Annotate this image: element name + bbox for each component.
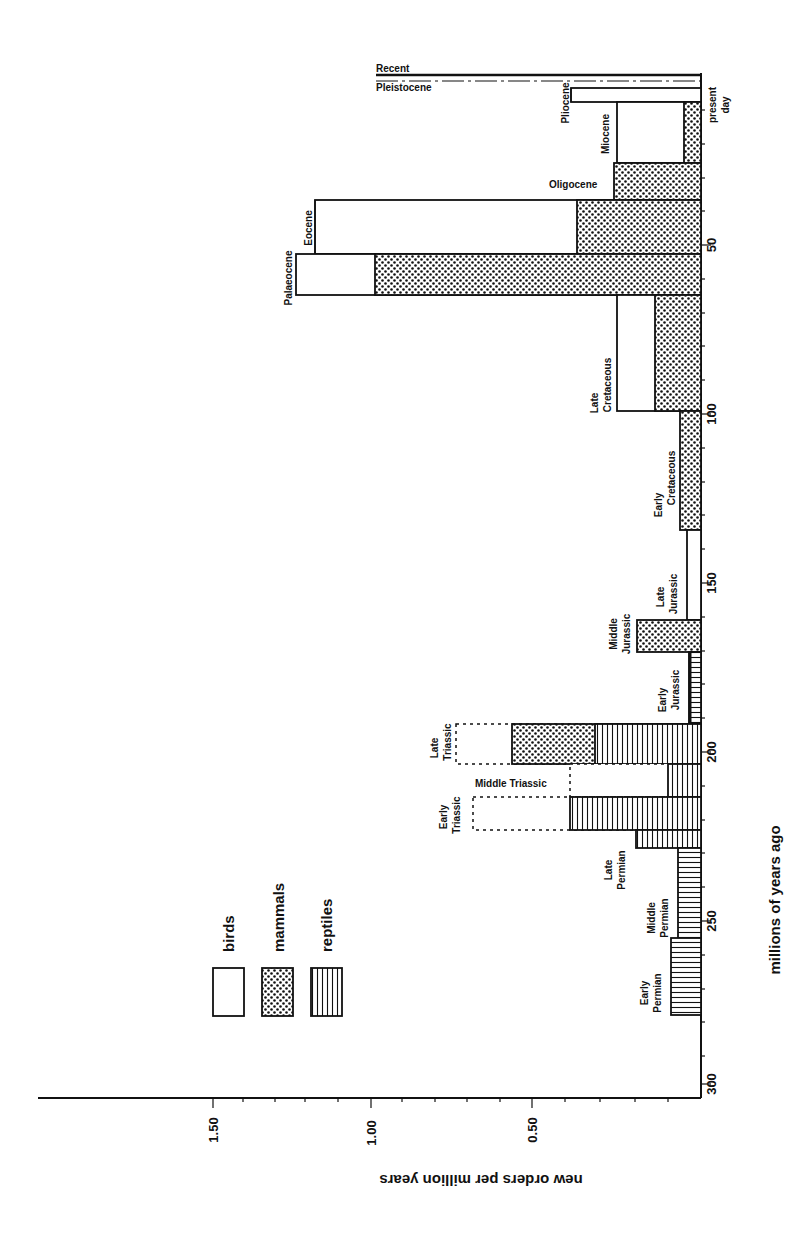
- legend: birds mammals reptiles: [213, 883, 342, 1016]
- vtick-0.50: 0.50: [525, 1117, 540, 1142]
- bar-eocene-mammals: [577, 200, 701, 254]
- legend-swatch-birds: [213, 968, 244, 1016]
- time-axis-title: millions of years ago: [766, 825, 783, 974]
- label-middle-triassic: Middle Triassic: [475, 778, 547, 789]
- day-label: day: [720, 96, 731, 114]
- bar-oligocene-mammals: [614, 163, 701, 200]
- label-late-triassic-1: Late: [429, 737, 440, 758]
- label-early-cretaceous-1: Early: [653, 492, 664, 517]
- bar-miocene-mammals: [684, 102, 701, 163]
- bar-early-cretaceous-mammals: [680, 411, 701, 530]
- bars: [296, 75, 701, 1015]
- tick-50: 50: [704, 238, 719, 252]
- label-early-triassic-2: Triassic: [451, 796, 462, 834]
- label-late-jurassic-2: Jurassic: [668, 573, 679, 614]
- tick-300: 300: [704, 1073, 719, 1095]
- bar-late-permian-reptiles: [636, 830, 701, 848]
- label-late-jurassic-1: Late: [655, 586, 666, 607]
- bar-middle-triassic-reptiles: [668, 764, 701, 797]
- rotated-stacked-bar-chart: 50 100 150 200 250 300 present day 0.50 …: [0, 0, 792, 1237]
- legend-swatch-mammals: [262, 968, 293, 1016]
- label-early-jurassic-1: Early: [657, 687, 668, 712]
- vtick-1.50: 1.50: [206, 1117, 221, 1142]
- tick-250: 250: [704, 910, 719, 932]
- value-axis-title: new orders per million years: [379, 1172, 582, 1189]
- label-palaeocene: Palaeocene: [283, 250, 294, 305]
- bar-early-permian-reptiles: [671, 938, 701, 1015]
- time-tick-labels: 50 100 150 200 250 300 present day: [704, 86, 731, 1095]
- bar-middle-permian-reptiles: [678, 848, 701, 938]
- tick-100: 100: [704, 403, 719, 425]
- label-recent: Recent: [376, 63, 410, 74]
- label-early-permian-1: Early: [639, 980, 650, 1005]
- label-middle-permian-2: Permian: [659, 898, 670, 937]
- label-middle-jurassic-2: Jurassic: [621, 613, 632, 654]
- label-early-jurassic-2: Jurassic: [670, 669, 681, 710]
- bar-palaeocene-mammals: [375, 254, 701, 295]
- label-late-permian-1: Late: [603, 859, 614, 880]
- bar-early-triassic-reptiles: [570, 797, 701, 830]
- legend-label-reptiles: reptiles: [318, 899, 335, 952]
- label-late-triassic-2: Triassic: [442, 723, 453, 761]
- bar-middle-jurassic-mammals: [637, 620, 701, 652]
- label-oligocene: Oligocene: [549, 179, 598, 190]
- label-late-cretaceous-1: Late: [589, 392, 600, 413]
- label-late-permian-2: Permian: [616, 850, 627, 889]
- legend-label-mammals: mammals: [270, 883, 287, 952]
- legend-swatch-reptiles: [311, 968, 342, 1016]
- label-early-permian-2: Permian: [652, 973, 663, 1012]
- label-pliocene: Pliocene: [560, 82, 571, 124]
- bar-pliocene-birds: [571, 88, 701, 102]
- tick-150: 150: [704, 572, 719, 594]
- value-axis: [38, 1098, 701, 1108]
- label-eocene: Eocene: [303, 210, 314, 246]
- label-miocene: Miocene: [600, 114, 611, 154]
- label-middle-permian-1: Middle: [646, 902, 657, 934]
- label-early-triassic-1: Early: [438, 804, 449, 829]
- label-middle-jurassic-1: Middle: [608, 618, 619, 650]
- present-label: present: [707, 86, 718, 123]
- vtick-1.00: 1.00: [364, 1120, 379, 1145]
- label-late-cretaceous-2: Cretaceous: [602, 357, 613, 412]
- label-pleistocene: Pleistocene: [376, 82, 432, 93]
- legend-label-birds: birds: [220, 915, 237, 952]
- bar-late-jurassic-birds: [687, 530, 701, 620]
- tick-200: 200: [704, 741, 719, 763]
- label-early-cretaceous-2: Cretaceous: [666, 450, 677, 505]
- bar-late-cretaceous-mammals: [655, 295, 701, 411]
- bar-late-triassic-reptiles: [595, 724, 701, 764]
- value-tick-labels: 0.50 1.00 1.50: [206, 1117, 540, 1145]
